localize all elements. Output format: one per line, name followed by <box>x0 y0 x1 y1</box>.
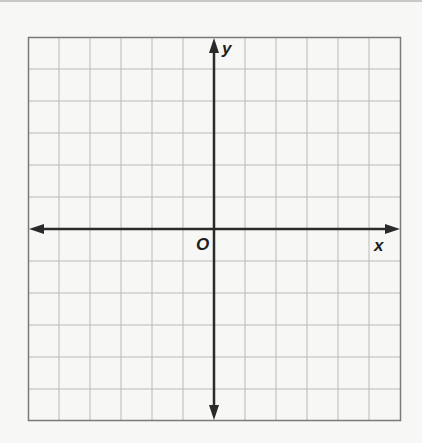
x-axis-right-arrow-icon <box>385 224 400 234</box>
x-axis-label: x <box>374 237 383 254</box>
y-axis-label: y <box>222 40 231 57</box>
origin-label: O <box>196 236 209 253</box>
coordinate-plane <box>0 0 422 443</box>
y-axis-top-arrow-icon <box>209 38 219 53</box>
x-axis-left-arrow-icon <box>29 224 44 234</box>
y-axis-bottom-arrow-icon <box>209 405 219 420</box>
